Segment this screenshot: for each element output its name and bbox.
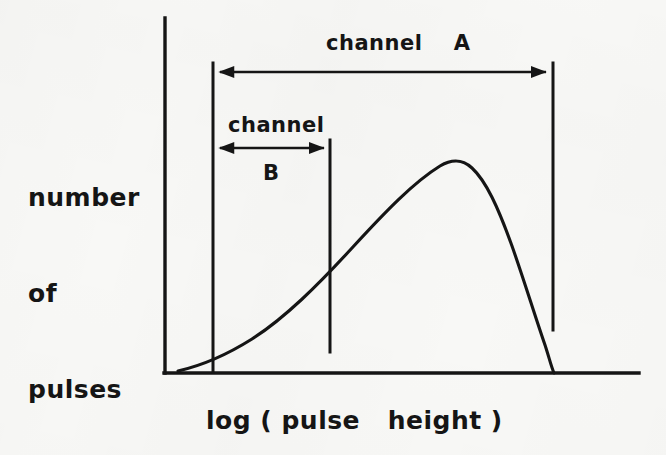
y-axis-label-line-2: of — [28, 278, 140, 310]
figure-root: number of pulses log ( pulse height ) ch… — [0, 0, 666, 455]
channel-b-label-top: channel — [228, 112, 324, 139]
channel-a-label: channel A — [326, 30, 470, 57]
distribution-curve — [178, 161, 554, 373]
y-axis-label-line-1: number — [28, 182, 140, 214]
y-axis-label-line-3: pulses — [28, 374, 140, 406]
x-axis-label: log ( pulse height ) — [206, 405, 503, 437]
channel-b-label-bottom: B — [263, 160, 280, 187]
y-axis-label: number of pulses — [28, 118, 140, 455]
